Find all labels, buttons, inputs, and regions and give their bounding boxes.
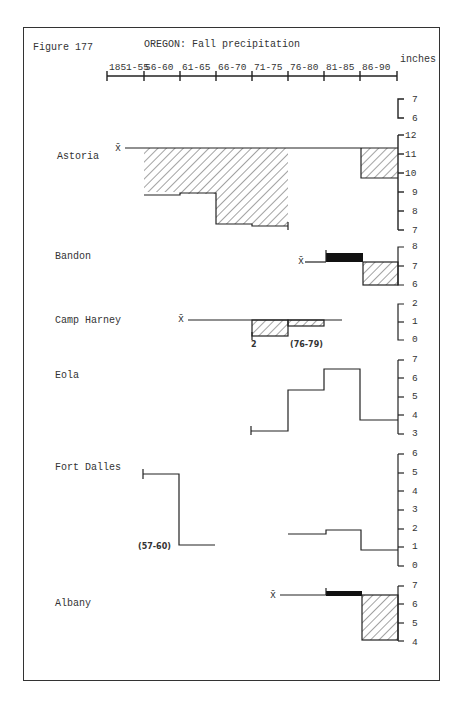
chart-graphics bbox=[0, 0, 463, 704]
